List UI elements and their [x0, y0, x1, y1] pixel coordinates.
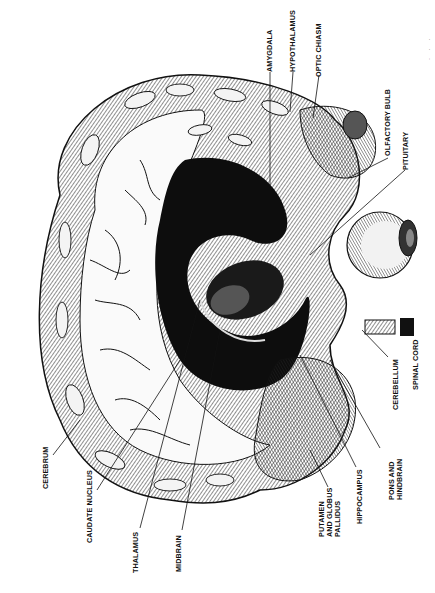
- label-pituitary: PITUITARY: [402, 132, 410, 170]
- label-caudate-nucleus: CAUDATE NUCLEUS: [86, 470, 94, 543]
- brain-illustration: [0, 0, 435, 593]
- label-putamen-and-globus-pallidus: PUTAMEN AND GLOBUS PALLIDUS: [318, 488, 342, 537]
- label-cerebrum: CEREBRUM: [42, 447, 50, 489]
- label-optic-chiasm: OPTIC CHIASM: [315, 23, 323, 77]
- label-amygdala: AMYGDALA: [266, 30, 274, 72]
- eyeball: [347, 212, 417, 278]
- label-pons-and-hindbrain: PONS AND HINDBRAIN: [388, 459, 404, 500]
- label-cerebellum: CEREBELLUM: [392, 359, 400, 410]
- cerebellum-shape: [254, 357, 355, 481]
- label-thalamus: THALAMUS: [132, 532, 140, 573]
- label-hypothalamus: HYPOTHALAMUS: [289, 10, 297, 72]
- label-olfactory-bulb: OLFACTORY BULB: [384, 89, 392, 156]
- brain-diagram: AMYGDALA HYPOTHALAMUS OPTIC CHIASM OLFAC…: [0, 0, 435, 593]
- label-hippocampus: HIPPOCAMPUS: [356, 469, 364, 524]
- label-midbrain: MIDBRAIN: [175, 535, 183, 572]
- spinal-cord: [365, 320, 395, 334]
- label-spinal-cord: SPINAL CORD: [412, 340, 420, 391]
- scan-edge-marks: · · ·: [426, 36, 432, 60]
